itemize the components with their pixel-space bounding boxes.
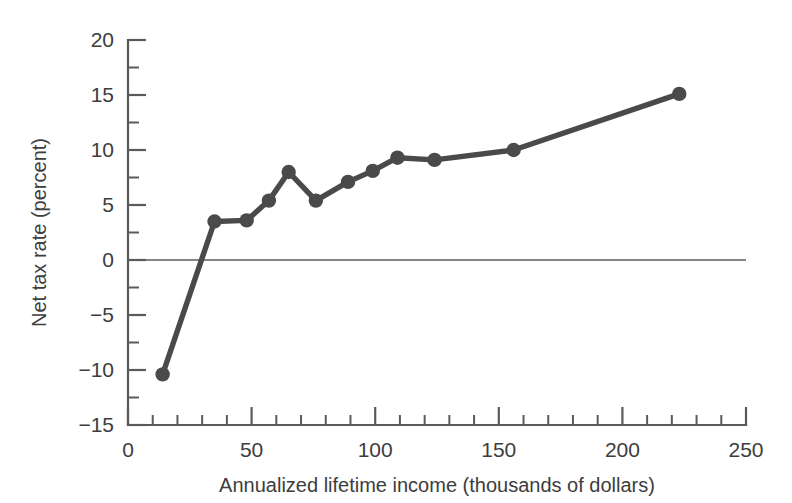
data-point-marker [155, 367, 169, 381]
chart-figure: −15−10−505101520 050100150200250 Annuali… [0, 0, 792, 503]
y-axis-title: Net tax rate (percent) [28, 138, 50, 327]
data-point-marker [506, 143, 520, 157]
x-axis-tick-label: 150 [481, 438, 516, 461]
data-point-marker [390, 151, 404, 165]
net-tax-rate-line-chart: −15−10−505101520 050100150200250 Annuali… [0, 0, 792, 503]
y-axis-tick-label: −15 [78, 413, 114, 436]
y-axis-tick-label: 5 [102, 193, 114, 216]
y-axis-tick-label: −10 [78, 358, 114, 381]
data-point-marker [281, 165, 295, 179]
data-point-marker [239, 213, 253, 227]
data-point-marker [207, 214, 221, 228]
y-axis-tick-label: 20 [91, 28, 114, 51]
x-axis-tick-label: 0 [122, 438, 134, 461]
y-axis-tick-label: 0 [102, 248, 114, 271]
data-point-marker [341, 175, 355, 189]
data-point-marker [309, 193, 323, 207]
y-axis-tick-label: −5 [90, 303, 114, 326]
x-axis-tick-label: 100 [358, 438, 393, 461]
x-axis-tick-label: 50 [240, 438, 263, 461]
data-point-marker [262, 193, 276, 207]
x-axis-tick-label: 250 [728, 438, 763, 461]
x-axis-title: Annualized lifetime income (thousands of… [219, 474, 655, 496]
data-point-marker [672, 87, 686, 101]
data-point-marker [427, 153, 441, 167]
y-axis-tick-label: 10 [91, 138, 114, 161]
data-point-marker [366, 164, 380, 178]
x-axis-tick-label: 200 [605, 438, 640, 461]
chart-background [0, 0, 792, 503]
y-axis-tick-label: 15 [91, 83, 114, 106]
